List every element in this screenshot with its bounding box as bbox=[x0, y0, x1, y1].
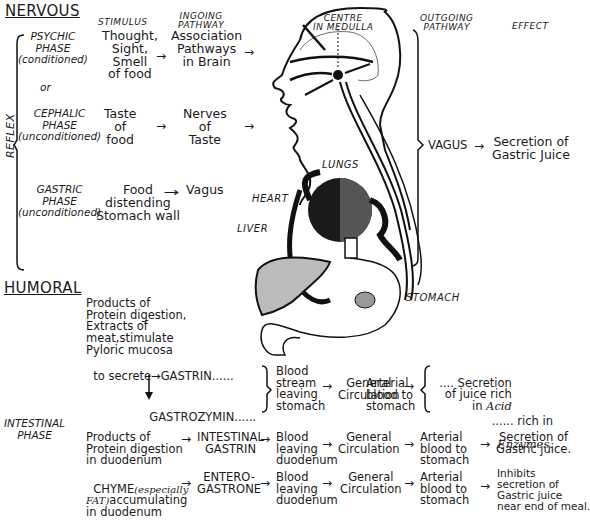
arrow-icon: → bbox=[151, 369, 161, 383]
arterial-blood-to-stomach: Arterial blood to stomach bbox=[366, 378, 415, 413]
intestinal-row2-effect: Inhibits secretion of Gastric juice near… bbox=[497, 468, 590, 512]
ingoing-pathway-header: INGOING PATHWAY bbox=[178, 12, 224, 29]
effect-header: EFFECT bbox=[512, 22, 549, 31]
intestinal-gastrin: INTESTINAL GASTRIN bbox=[197, 432, 264, 455]
dots-leader: ...... bbox=[212, 369, 234, 383]
enterogastrone: ENTERO- GASTRONE bbox=[197, 472, 261, 495]
arrow-icon: → bbox=[260, 477, 270, 490]
centre-medulla-label: CENTRE IN MEDULLA bbox=[313, 14, 373, 31]
reflex-label: REFLEX bbox=[5, 114, 17, 159]
arrow-icon: → bbox=[322, 477, 332, 490]
psychic-phase-label: PSYCHIC PHASE (conditioned) bbox=[18, 31, 88, 66]
secrete-text: to secrete bbox=[93, 369, 151, 383]
psychic-pathway: Association Pathways in Brain bbox=[171, 30, 242, 68]
cephalic-pathway: Nerves of Taste bbox=[183, 108, 227, 146]
arrow-icon: → bbox=[181, 433, 191, 446]
gastrozymin-hormone: GASTROZYMIN bbox=[149, 410, 234, 424]
vagus-outgoing-pathway: VAGUS bbox=[428, 140, 467, 152]
arrow-icon: → bbox=[244, 120, 254, 133]
outgoing-brace bbox=[413, 30, 423, 266]
arrow-icon: → bbox=[480, 438, 490, 451]
nervous-effect: Secretion of Gastric Juice bbox=[492, 136, 570, 162]
pancreas-icon bbox=[355, 292, 375, 308]
arrow-icon: → bbox=[404, 438, 414, 451]
arrow-icon: → bbox=[163, 186, 179, 199]
cephalic-stimulus: Taste of food bbox=[104, 108, 136, 146]
arrow-icon: → bbox=[244, 46, 254, 59]
arrow-icon: → bbox=[156, 120, 166, 133]
intestinal-row1-circulation: General Circulation bbox=[338, 432, 400, 455]
humoral-stimulus: Products of Protein digestion, Extracts … bbox=[86, 298, 187, 357]
in-duodenum-text: in duodenum bbox=[86, 505, 162, 519]
arrow-icon: → bbox=[156, 50, 166, 63]
arrow-icon: → bbox=[474, 140, 484, 153]
intestinal-phase-label: INTESTINAL PHASE bbox=[4, 418, 65, 441]
effect-brace bbox=[421, 366, 430, 412]
heart-label: HEART bbox=[252, 194, 288, 205]
gastric-phase-label: GASTRIC PHASE (unconditioned) bbox=[18, 184, 101, 219]
humoral-section-title: HUMORAL bbox=[4, 281, 82, 297]
dots-leader: ...... bbox=[234, 410, 256, 424]
gastrozymin-label: GASTROZYMIN...... bbox=[142, 400, 256, 423]
liver-label: LIVER bbox=[237, 224, 268, 235]
nervous-section-title: NERVOUS bbox=[5, 4, 80, 20]
intestinal-row1-effect: Secretion of Gastric juice. bbox=[496, 432, 571, 455]
effect-enzymes-text: ...... rich in bbox=[492, 414, 553, 428]
outgoing-pathway-header: OUTGOING PATHWAY bbox=[420, 14, 474, 31]
arrow-icon: → bbox=[404, 477, 414, 490]
intestinal-row1-stimulus: Products of Protein digestion in duodenu… bbox=[86, 432, 183, 467]
intestinal-row1-arterial: Arterial blood to stomach bbox=[420, 432, 469, 467]
bloodstream-leaving-stomach: Blood stream leaving stomach bbox=[276, 366, 325, 413]
psychic-stimulus: Thought, Sight, Smell of food bbox=[102, 30, 158, 81]
intestinal-row2-stimulus: CHYME(especiallyFAT)accumulatingin duode… bbox=[86, 472, 188, 519]
stomach-label: STOMACH bbox=[406, 293, 460, 304]
intestinal-row2-circulation: General Circulation bbox=[340, 472, 402, 495]
arrow-icon: → bbox=[181, 477, 191, 490]
lungs-label: LUNGS bbox=[322, 160, 359, 171]
arrow-icon: → bbox=[260, 433, 270, 446]
secrete-label: to secrete→GASTRIN...... bbox=[86, 359, 234, 382]
arrow-icon: → bbox=[322, 438, 332, 451]
cephalic-phase-label: CEPHALIC PHASE (unconditioned) bbox=[18, 108, 101, 143]
liver-icon bbox=[256, 257, 330, 315]
stimulus-header: STIMULUS bbox=[98, 18, 148, 27]
arrow-icon: → bbox=[480, 480, 490, 493]
medulla-centre-icon bbox=[333, 70, 343, 80]
gastrin-hormone: GASTRIN bbox=[161, 369, 212, 383]
or-label: or bbox=[40, 82, 51, 94]
arrow-icon: → bbox=[322, 380, 332, 393]
intestinal-row2-arterial: Arterial blood to stomach bbox=[420, 472, 469, 507]
gastric-pathway: Vagus bbox=[186, 184, 224, 197]
humoral-brace bbox=[262, 366, 271, 412]
